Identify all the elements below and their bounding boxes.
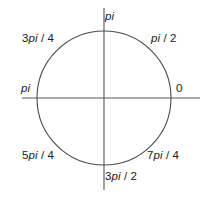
- pi-symbol: pi: [21, 82, 30, 94]
- angle-label-bottom: 3pi / 2: [105, 171, 137, 183]
- diagram-canvas: [0, 0, 209, 197]
- angle-label-left: pi: [21, 83, 30, 95]
- pi-symbol: pi: [29, 32, 38, 44]
- pi-symbol: pi: [112, 170, 121, 182]
- angle-label-upper-right: pi / 2: [151, 33, 177, 45]
- pi-symbol: pi: [151, 32, 160, 44]
- angle-label-lower-left: 5pi / 4: [22, 150, 54, 162]
- angle-label-upper-left: 3pi / 4: [22, 33, 54, 45]
- unit-circle-diagram: 0 pi / 2 pi 3pi / 4 pi 5pi / 4 3pi / 2 7…: [0, 0, 209, 197]
- pi-symbol: pi: [105, 10, 114, 22]
- pi-symbol: pi: [154, 149, 163, 161]
- angle-label-lower-right: 7pi / 4: [147, 150, 179, 162]
- angle-label-top: pi: [105, 11, 114, 23]
- pi-symbol: pi: [29, 149, 38, 161]
- angle-label-right: 0: [176, 83, 183, 95]
